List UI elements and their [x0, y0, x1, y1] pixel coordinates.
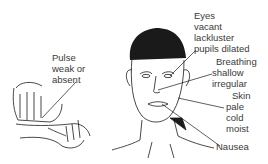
- hands-drawing: [13, 82, 90, 148]
- pulse-leader-line: [42, 82, 76, 118]
- label-breathing: Breathing shallow irregular: [212, 56, 257, 89]
- label-skin: Skin pale cold moist: [226, 90, 250, 134]
- label-nausea: Nausea: [216, 141, 249, 152]
- label-pulse: Pulse weak or absent: [52, 52, 85, 85]
- label-eyes: Eyes vacant lackluster pupils dilated: [194, 10, 249, 54]
